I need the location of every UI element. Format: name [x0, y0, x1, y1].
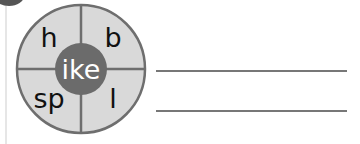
wheel-center-ending: ike [62, 54, 101, 85]
wheel-onset-bottom-left: sp [33, 83, 64, 114]
wheel-onset-bottom-right: l [109, 83, 117, 114]
wheel-onset-top-right: b [104, 22, 121, 53]
wheel-onset-top-left: h [40, 22, 57, 53]
answer-line-1[interactable] [156, 70, 347, 72]
word-wheel: ike h b sp l [0, 0, 160, 144]
answer-line-2[interactable] [156, 110, 347, 112]
